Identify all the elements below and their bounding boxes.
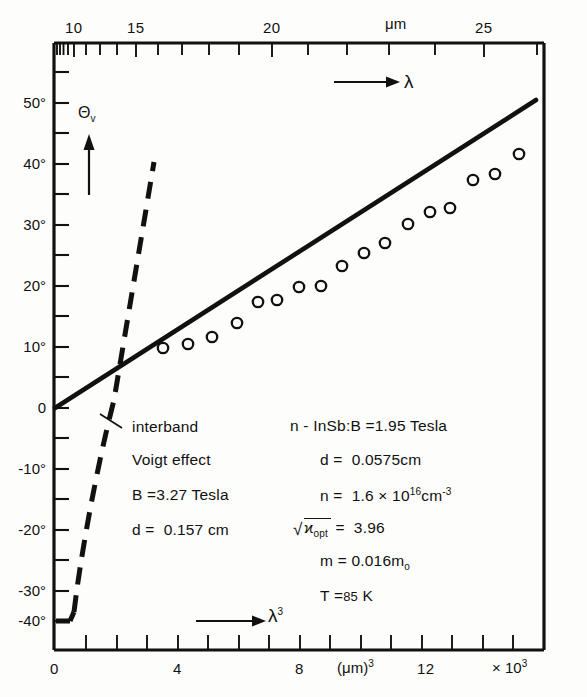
theta-subscript: v: [90, 113, 95, 124]
data-point: [445, 203, 455, 213]
top-axis-ticks: [57, 43, 537, 57]
lambda-symbol-label: λ: [404, 72, 414, 91]
ten-base: 10: [392, 487, 410, 504]
y-tick-label-0: 0: [6, 400, 46, 415]
lambda-symbol: λ: [268, 605, 278, 626]
equals-sign: =: [338, 552, 347, 569]
m-symbol: m: [320, 552, 333, 569]
ten-base: 10: [505, 659, 522, 676]
annotation-B-field-interband: B =3.27 Tesla: [132, 487, 229, 503]
data-point: [380, 238, 390, 248]
lambda-cubed-label: λ3: [268, 606, 283, 625]
x-tick-label-12: 12: [417, 661, 434, 676]
equals-sign: =: [365, 417, 374, 434]
exponent-16: 16: [410, 486, 422, 497]
annotation-thickness-interband: d = 0.157 cm: [132, 522, 229, 538]
bottom-axis-ticks: [86, 635, 513, 650]
cm-unit: cm: [421, 487, 442, 504]
y-tick-label-neg30: -30°: [2, 583, 46, 598]
data-point: [183, 339, 193, 349]
m-value: 0.016: [351, 552, 391, 569]
annotation-thickness: d = 0.0575cm: [320, 452, 421, 468]
equals-sign: =: [336, 519, 345, 536]
x-tick-label-8: 8: [295, 661, 304, 676]
theta-symbol: Θ: [78, 104, 90, 121]
top-axis-tick-label-15: 15: [127, 20, 144, 35]
y-tick-label-neg10: -10°: [2, 461, 46, 476]
d-value: 0.157 cm: [164, 521, 229, 538]
y-tick-label-20: 20°: [6, 278, 46, 293]
B-symbol: B: [350, 417, 361, 434]
x-tick-label-0: 0: [50, 661, 59, 676]
equals-sign: =: [147, 486, 156, 503]
times-sign: ×: [378, 487, 387, 504]
exponent-3: 3: [368, 658, 374, 669]
y-tick-label-neg20: -20°: [2, 522, 46, 537]
top-axis-tick-label-10: 10: [65, 20, 82, 35]
n-symbol: n: [320, 487, 329, 504]
theta-v-label: Θv: [78, 105, 95, 124]
data-points-group: [158, 149, 524, 353]
data-point: [425, 207, 435, 217]
x-tick-label-4: 4: [173, 661, 182, 676]
sample-name: n - InSb: [290, 417, 346, 434]
exponent-3: 3: [522, 658, 528, 669]
equals-sign: =: [333, 487, 342, 504]
top-axis-tick-label-20: 20: [263, 20, 280, 35]
data-point: [514, 149, 524, 159]
d-symbol: d: [132, 521, 141, 538]
m-unit: m: [391, 552, 404, 569]
annotation-voigt-effect: Voigt effect: [132, 452, 211, 468]
y-tick-label-10: 10°: [6, 339, 46, 354]
d-value: 0.0575cm: [352, 451, 422, 468]
times-sign: ×: [492, 659, 501, 676]
equals-sign: =: [334, 587, 343, 604]
data-point: [207, 332, 217, 342]
data-point: [359, 248, 369, 258]
B-symbol: B: [132, 486, 143, 503]
data-point: [490, 169, 500, 179]
lambda-cubed-arrow: [196, 616, 266, 627]
sqrt-radicand: ϰopt: [304, 518, 331, 539]
top-axis-unit-label: μm: [385, 16, 406, 31]
data-point: [337, 261, 347, 271]
kappa-subscript-opt: opt: [314, 528, 329, 539]
annotation-temperature: T =85 K: [320, 588, 373, 604]
equals-sign: =: [333, 451, 342, 468]
figure-panel: 10 15 20 25 μm λ Θv 50° 40° 30° 20° 10° …: [0, 0, 587, 697]
B-value: 3.27: [156, 486, 187, 503]
m-subscript-o: o: [404, 561, 410, 572]
theta-v-arrow: [84, 134, 95, 195]
free-carrier-fit-line: [55, 100, 536, 408]
interband-dashed-curve: [56, 162, 154, 621]
annotation-effective-mass: m = 0.016mo: [320, 553, 410, 572]
plot-frame: [54, 43, 544, 650]
B-value: 1.95: [375, 417, 406, 434]
micron-cubed-base: (μm): [337, 659, 368, 676]
T-value: 85: [343, 589, 358, 604]
data-point: [272, 295, 282, 305]
x-axis-multiplier-label: × 103: [492, 659, 527, 675]
equals-sign: =: [145, 521, 154, 538]
x-axis-unit-label: (μm)3: [337, 659, 374, 675]
y-tick-label-40: 40°: [6, 156, 46, 171]
lambda-arrow: [334, 77, 400, 88]
data-point: [158, 343, 168, 353]
sqrt-icon: √: [293, 521, 303, 538]
kappa-symbol: ϰ: [304, 519, 314, 536]
top-axis-tick-label-25: 25: [475, 20, 492, 35]
data-point: [232, 318, 242, 328]
exponent-minus3: -3: [442, 486, 451, 497]
y-tick-label-neg40: -40°: [2, 613, 46, 628]
annotation-optical-dielectric: ϰopt√ = 3.96: [303, 518, 385, 539]
annotation-interband: interband: [132, 419, 198, 435]
data-point: [316, 281, 326, 291]
annotation-carrier-density: n = 1.6 × 1016cm-3: [320, 487, 452, 504]
kelvin-unit: K: [363, 587, 374, 604]
tesla-unit: Tesla: [192, 486, 229, 503]
left-axis-ticks: [54, 72, 69, 621]
data-point: [294, 282, 304, 292]
data-point: [403, 219, 413, 229]
kappa-value: 3.96: [354, 519, 385, 536]
data-point: [253, 297, 263, 307]
